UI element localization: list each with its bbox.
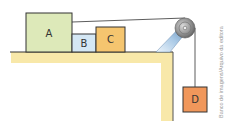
pulley [175, 18, 195, 38]
pulley-axle [183, 26, 187, 30]
string-horizontal [72, 18, 185, 22]
block-a: A [26, 13, 72, 52]
image-credit: Banco de imagens/Arquivo da editora [218, 25, 224, 118]
block-b-label: B [81, 38, 88, 49]
block-d-label: D [191, 94, 199, 105]
block-c: C [96, 27, 125, 52]
table [10, 52, 173, 121]
block-b: B [72, 34, 96, 52]
block-d: D [183, 87, 207, 112]
table-surface [11, 52, 173, 121]
pulley-system-diagram: A B C D Banco de imagens/Arquivo da edit… [0, 0, 232, 125]
block-a-label: A [46, 28, 53, 39]
block-c-label: C [107, 34, 114, 45]
